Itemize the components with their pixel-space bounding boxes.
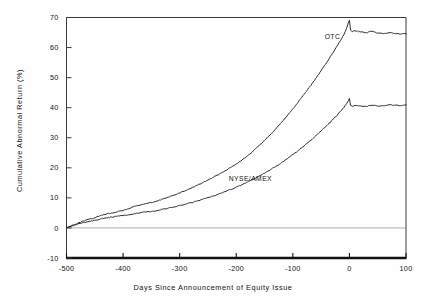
series-label-nyse-amex: NYSE/AMEX [229,175,272,182]
svg-text:30: 30 [50,133,59,142]
svg-text:50: 50 [50,73,59,82]
figure-container: Cumulative Abnormal Return (%) Days Sinc… [0,0,426,303]
svg-text:70: 70 [50,13,59,22]
svg-text:-500: -500 [59,264,75,273]
svg-text:10: 10 [50,193,59,202]
y-axis-ticks: -10010203040506070 [47,13,71,263]
svg-text:100: 100 [400,264,413,273]
svg-text:-400: -400 [115,264,131,273]
svg-text:-200: -200 [228,264,244,273]
svg-text:-300: -300 [172,264,188,273]
svg-text:40: 40 [50,103,59,112]
svg-text:0: 0 [54,224,58,233]
svg-text:-10: -10 [47,254,58,263]
x-axis-ticks: -500-400-300-200-1000100 [59,253,413,273]
svg-text:20: 20 [50,163,59,172]
svg-text:60: 60 [50,43,59,52]
svg-text:-100: -100 [285,264,301,273]
data-series-group [67,20,407,228]
svg-text:0: 0 [347,264,351,273]
line-chart-plot: -10010203040506070 -500-400-300-200-1000… [0,0,426,303]
plot-frame [66,18,407,259]
series-label-otc: OTC [325,33,341,40]
